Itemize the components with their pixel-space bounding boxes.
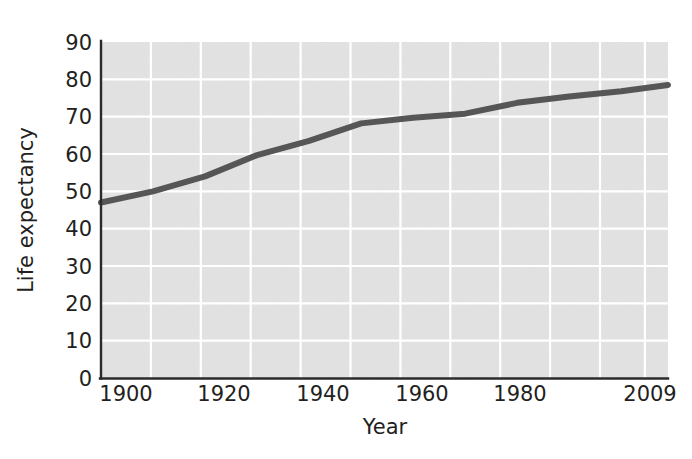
y-tick-label-30: 30 [65, 255, 92, 279]
life-expectancy-line-chart: 0 10 20 30 40 50 60 70 80 90 1900 1920 1… [0, 0, 692, 459]
x-tick-label-1900: 1900 [99, 382, 152, 406]
y-tick-label-10: 10 [65, 329, 92, 353]
y-tick-label-20: 20 [65, 292, 92, 316]
y-axis-title: Life expectancy [14, 127, 38, 293]
y-tick-label-80: 80 [65, 68, 92, 92]
y-tick-label-70: 70 [65, 105, 92, 129]
x-tick-label-1920: 1920 [197, 382, 250, 406]
y-tick-label-60: 60 [65, 143, 92, 167]
x-tick-label-1960: 1960 [395, 382, 448, 406]
x-tick-label-2009: 2009 [623, 382, 676, 406]
chart-figure: 0 10 20 30 40 50 60 70 80 90 1900 1920 1… [0, 0, 692, 459]
y-tick-label-40: 40 [65, 217, 92, 241]
x-tick-label-1940: 1940 [296, 382, 349, 406]
y-tick-label-0: 0 [79, 367, 92, 391]
y-tick-label-50: 50 [65, 180, 92, 204]
x-tick-label-1980: 1980 [493, 382, 546, 406]
y-tick-label-90: 90 [65, 31, 92, 55]
x-axis-title: Year [362, 415, 408, 439]
